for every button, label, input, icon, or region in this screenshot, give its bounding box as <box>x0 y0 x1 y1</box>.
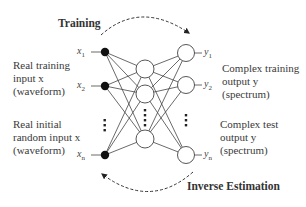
output-var-n: yn <box>204 148 212 162</box>
test-output-line-3: (spectrum) <box>220 144 278 157</box>
output-var-2: y2 <box>204 78 212 92</box>
input-var-2: x2 <box>77 79 85 93</box>
training-arrow <box>101 17 189 35</box>
input-node-n <box>101 151 109 159</box>
training-input-line-3: (waveform) <box>13 85 70 98</box>
test-output-label: Complex test output y (spectrum) <box>220 118 278 157</box>
training-output-line-3: (spectrum) <box>222 88 299 101</box>
input-nodes <box>101 48 109 159</box>
input-var-1: x1 <box>77 45 85 59</box>
random-input-line-2: random input x <box>13 131 80 144</box>
output-stubs <box>194 53 202 155</box>
training-input-line-1: Real training <box>13 59 70 72</box>
network-diagram <box>0 0 306 207</box>
training-label: Training <box>58 17 101 30</box>
random-input-label: Real initial random input x (waveform) <box>13 118 80 157</box>
ellipsis-dots <box>104 109 188 131</box>
training-output-line-1: Complex training <box>222 62 299 75</box>
inverse-estimation-arrow <box>102 172 193 192</box>
training-output-line-2: output y <box>222 75 299 88</box>
training-input-label: Real training input x (waveform) <box>13 59 70 98</box>
training-output-label: Complex training output y (spectrum) <box>222 62 299 101</box>
test-output-line-2: output y <box>220 131 278 144</box>
inverse-estimation-label: Inverse Estimation <box>187 180 280 193</box>
test-output-line-1: Complex test <box>220 118 278 131</box>
random-input-line-3: (waveform) <box>13 144 80 157</box>
output-var-1: y1 <box>204 46 212 60</box>
input-node-2 <box>101 82 109 90</box>
training-input-line-2: input x <box>13 72 70 85</box>
random-input-line-1: Real initial <box>13 118 80 131</box>
input-node-1 <box>101 48 109 56</box>
input-stubs <box>91 52 105 155</box>
